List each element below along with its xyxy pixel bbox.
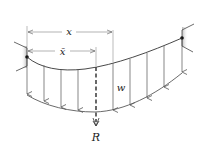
label-R: R [91,131,100,144]
left-support [14,42,29,71]
cable-curve [27,38,182,70]
load-envelope-curve [27,73,182,112]
label-w: w [117,82,126,93]
distributed-load-diagram: x x̄ w R [0,0,205,160]
load-arrows [27,39,182,110]
left-wall-line-top [14,42,27,48]
label-x: x [66,26,72,37]
label-x-bar: x̄ [60,46,66,57]
resultant [93,67,99,126]
